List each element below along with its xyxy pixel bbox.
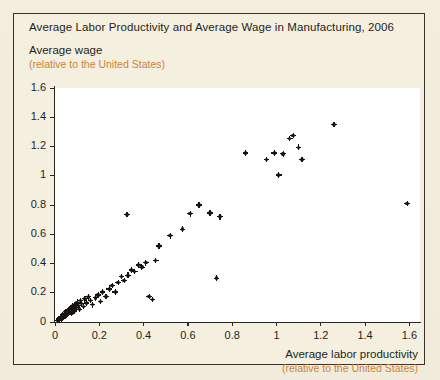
x-tick-label: 0.6 bbox=[168, 329, 208, 341]
x-tick-mark bbox=[99, 322, 100, 326]
y-tick-mark bbox=[50, 117, 54, 118]
y-tick-label: 0.6 bbox=[6, 227, 46, 239]
y-tick-mark bbox=[50, 146, 54, 147]
y-tick-label: 0.2 bbox=[6, 285, 46, 297]
plot-area bbox=[55, 88, 420, 322]
y-tick-label: 0.8 bbox=[6, 198, 46, 210]
y-tick-mark bbox=[50, 175, 54, 176]
x-tick-label: 1.4 bbox=[345, 329, 385, 341]
x-axis-label-sub: (relative to the United States) bbox=[282, 362, 418, 374]
y-tick-mark bbox=[50, 263, 54, 264]
x-axis-label-main: Average labor productivity bbox=[285, 348, 418, 360]
x-tick-label: 1 bbox=[257, 329, 297, 341]
y-tick-mark bbox=[50, 292, 54, 293]
x-tick-mark bbox=[276, 322, 277, 326]
x-tick-label: 1.6 bbox=[389, 329, 429, 341]
y-tick-label: 0 bbox=[6, 315, 46, 327]
y-axis-label-main: Average wage bbox=[29, 44, 102, 56]
y-tick-mark bbox=[50, 88, 54, 89]
x-tick-mark bbox=[365, 322, 366, 326]
y-tick-mark bbox=[50, 322, 54, 323]
x-tick-mark bbox=[55, 322, 56, 326]
x-tick-mark bbox=[187, 322, 188, 326]
x-axis-line bbox=[54, 322, 421, 323]
y-tick-label: 0.4 bbox=[6, 256, 46, 268]
x-tick-mark bbox=[143, 322, 144, 326]
y-axis-label-sub: (relative to the United States) bbox=[29, 58, 165, 70]
x-tick-label: 0.8 bbox=[212, 329, 252, 341]
x-tick-label: 0.4 bbox=[124, 329, 164, 341]
y-tick-label: 1 bbox=[6, 168, 46, 180]
y-tick-mark bbox=[50, 205, 54, 206]
x-tick-mark bbox=[232, 322, 233, 326]
x-tick-mark bbox=[320, 322, 321, 326]
y-axis-line bbox=[54, 86, 55, 323]
x-tick-mark bbox=[409, 322, 410, 326]
y-tick-mark bbox=[50, 234, 54, 235]
x-tick-label: 0 bbox=[35, 329, 75, 341]
chart-title: Average Labor Productivity and Average W… bbox=[29, 21, 394, 33]
y-tick-label: 1.6 bbox=[6, 81, 46, 93]
x-tick-label: 0.2 bbox=[79, 329, 119, 341]
figure-canvas: Average Labor Productivity and Average W… bbox=[0, 0, 440, 380]
y-tick-label: 1.2 bbox=[6, 139, 46, 151]
x-tick-label: 1.2 bbox=[301, 329, 341, 341]
y-tick-label: 1.4 bbox=[6, 110, 46, 122]
